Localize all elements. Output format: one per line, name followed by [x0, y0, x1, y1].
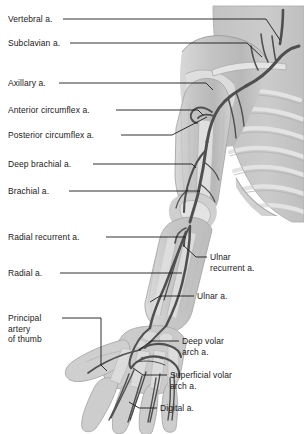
- label-deep-volar-arch-a: Deep volar arch a.: [182, 336, 224, 357]
- label-vertebral-a: Vertebral a.: [8, 14, 53, 25]
- label-deep-brachial-a: Deep brachial a.: [8, 159, 71, 170]
- label-ulnar-recurrent-a: Ulnar recurrent a.: [210, 252, 254, 273]
- label-anterior-circumflex-a: Anterior circumflex a.: [8, 105, 90, 116]
- label-digital-a: Digital a.: [160, 403, 194, 414]
- anatomical-figure-arteries-of-upper-limb: Vertebral a. Subclavian a. Axillary a. A…: [0, 0, 304, 434]
- label-axillary-a: Axillary a.: [8, 78, 46, 89]
- label-superficial-volar-arch-a: Superficial volar arch a.: [170, 370, 232, 391]
- label-posterior-circumflex-a: Posterior circumflex a.: [8, 130, 94, 141]
- label-radial-a: Radial a.: [8, 268, 42, 279]
- label-ulnar-a: Ulnar a.: [197, 291, 227, 302]
- label-principal-artery-of-thumb: Principal artery of thumb: [8, 313, 42, 345]
- label-brachial-a: Brachial a.: [8, 186, 49, 197]
- label-radial-recurrent-a: Radial recurrent a.: [8, 232, 80, 243]
- arm-artery-illustration: [0, 0, 304, 434]
- label-subclavian-a: Subclavian a.: [8, 38, 60, 49]
